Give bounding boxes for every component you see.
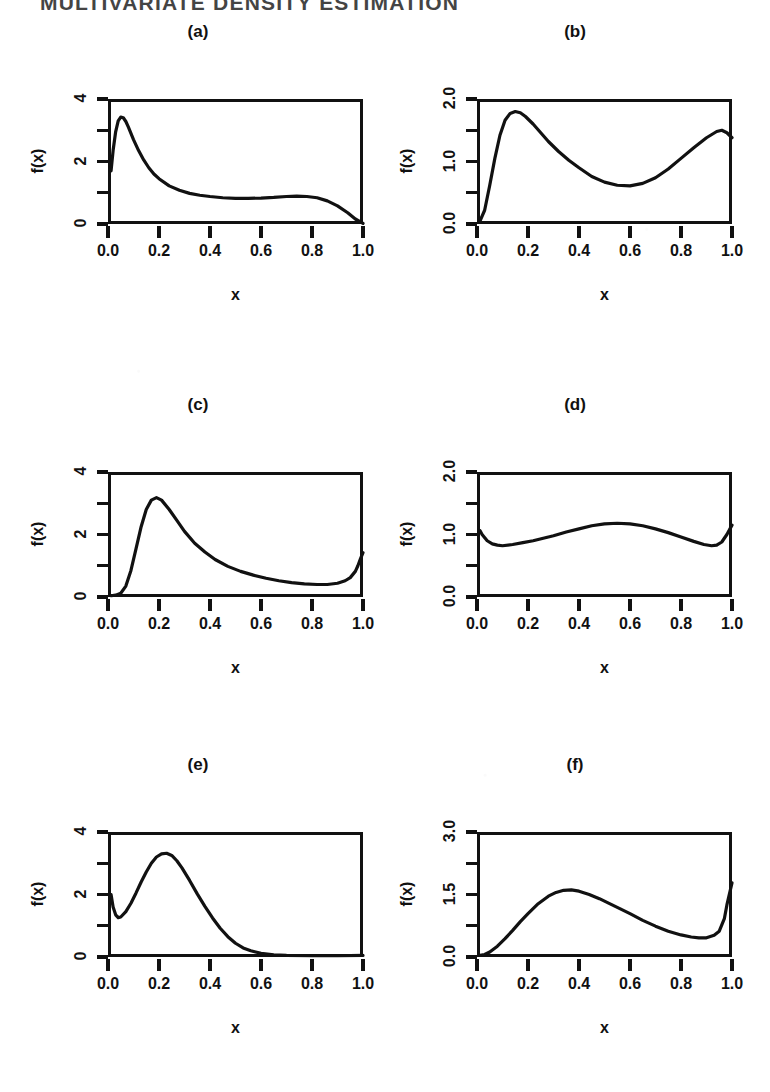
y-axis-tick-minor-b: [466, 129, 477, 132]
x-tick-label-b: 0.6: [607, 242, 653, 260]
plot-panel-a: (a)024f(x)0.00.20.40.60.81.0x: [8, 22, 388, 352]
y-tick-label-e: 2: [72, 871, 90, 917]
x-axis-tick-c: [259, 599, 262, 611]
y-tick-label-b: 2.0: [441, 75, 459, 121]
panel-title-a: (a): [8, 22, 388, 42]
x-tick-label-f: 0.2: [505, 975, 551, 993]
x-axis-tick-d: [577, 599, 580, 611]
x-tick-label-e: 0.4: [187, 975, 233, 993]
y-tick-label-a: 0: [72, 200, 90, 246]
x-tick-label-a: 0.2: [136, 242, 182, 260]
y-axis-tick-major-d: [466, 533, 477, 536]
x-tick-label-f: 0.0: [454, 975, 500, 993]
x-axis-tick-e: [157, 959, 160, 971]
x-axis-tick-f: [679, 959, 682, 971]
x-tick-label-d: 1.0: [709, 615, 755, 633]
y-tick-label-b: 1.0: [441, 138, 459, 184]
x-axis-tick-d: [679, 599, 682, 611]
x-axis-tick-b: [679, 226, 682, 238]
x-tick-label-a: 1.0: [340, 242, 386, 260]
x-tick-label-b: 0.4: [556, 242, 602, 260]
x-tick-label-e: 0.8: [289, 975, 335, 993]
x-axis-tick-a: [106, 226, 109, 238]
x-tick-label-b: 1.0: [709, 242, 755, 260]
x-axis-tick-f: [730, 959, 733, 971]
y-tick-label-c: 4: [72, 448, 90, 494]
running-head: MULTIVARIATE DENSITY ESTIMATION: [40, 0, 459, 15]
y-axis-tick-minor-c: [97, 502, 108, 505]
x-axis-tick-e: [106, 959, 109, 971]
x-axis-tick-c: [310, 599, 313, 611]
plot-panel-e: (e)024f(x)0.00.20.40.60.81.0x: [8, 755, 388, 1085]
x-axis-tick-b: [730, 226, 733, 238]
x-axis-title-f: x: [385, 1019, 770, 1037]
plot-panel-f: (f)0.01.53.0f(x)0.00.20.40.60.81.0x: [385, 755, 765, 1085]
x-tick-label-e: 0.6: [238, 975, 284, 993]
y-axis-tick-minor-c: [97, 564, 108, 567]
y-tick-label-e: 4: [72, 808, 90, 854]
x-tick-label-f: 1.0: [709, 975, 755, 993]
x-axis-tick-c: [106, 599, 109, 611]
density-curve-c: [108, 472, 363, 597]
y-axis-title-a: f(x): [29, 148, 47, 173]
panel-title-d: (d): [385, 395, 765, 415]
x-axis-tick-d: [526, 599, 529, 611]
y-axis-tick-minor-a: [97, 191, 108, 194]
density-curve-b: [477, 99, 732, 224]
x-axis-tick-b: [526, 226, 529, 238]
x-tick-label-a: 0.8: [289, 242, 335, 260]
x-axis-tick-d: [730, 599, 733, 611]
panel-title-e: (e): [8, 755, 388, 775]
x-axis-tick-a: [310, 226, 313, 238]
y-tick-label-e: 0: [72, 933, 90, 979]
density-curve-f: [477, 832, 732, 957]
y-tick-label-a: 2: [72, 138, 90, 184]
x-tick-label-b: 0.8: [658, 242, 704, 260]
y-tick-label-a: 4: [72, 75, 90, 121]
x-axis-tick-c: [157, 599, 160, 611]
x-tick-label-d: 0.4: [556, 615, 602, 633]
x-tick-label-c: 0.6: [238, 615, 284, 633]
x-tick-label-b: 0.0: [454, 242, 500, 260]
y-tick-label-b: 0.0: [441, 200, 459, 246]
x-axis-tick-e: [208, 959, 211, 971]
x-axis-tick-c: [208, 599, 211, 611]
y-tick-label-c: 2: [72, 511, 90, 557]
y-axis-tick-minor-e: [97, 862, 108, 865]
x-axis-title-d: x: [385, 659, 770, 677]
y-tick-label-d: 2.0: [441, 448, 459, 494]
x-tick-label-a: 0.6: [238, 242, 284, 260]
y-axis-tick-major-a: [97, 160, 108, 163]
x-tick-label-c: 0.0: [85, 615, 131, 633]
panel-title-f: (f): [385, 755, 765, 775]
y-tick-label-c: 0: [72, 573, 90, 619]
density-curve-d: [477, 472, 732, 597]
y-axis-tick-major-b: [466, 160, 477, 163]
x-axis-tick-f: [475, 959, 478, 971]
plot-panel-c: (c)024f(x)0.00.20.40.60.81.0x: [8, 395, 388, 725]
y-axis-tick-minor-f: [466, 924, 477, 927]
panel-title-b: (b): [385, 22, 765, 42]
x-axis-tick-f: [628, 959, 631, 971]
x-tick-label-f: 0.6: [607, 975, 653, 993]
x-tick-label-d: 0.8: [658, 615, 704, 633]
x-tick-label-d: 0.6: [607, 615, 653, 633]
x-axis-tick-d: [475, 599, 478, 611]
x-tick-label-c: 0.8: [289, 615, 335, 633]
x-tick-label-d: 0.0: [454, 615, 500, 633]
x-tick-label-f: 0.8: [658, 975, 704, 993]
y-axis-tick-major-f: [466, 830, 477, 833]
x-axis-tick-b: [577, 226, 580, 238]
y-axis-tick-major-e: [97, 830, 108, 833]
x-axis-tick-f: [526, 959, 529, 971]
x-axis-tick-c: [361, 599, 364, 611]
y-axis-tick-minor-f: [466, 862, 477, 865]
y-tick-label-f: 0.0: [441, 933, 459, 979]
density-curve-e: [108, 832, 363, 957]
y-axis-tick-major-a: [97, 97, 108, 100]
x-tick-label-f: 0.4: [556, 975, 602, 993]
x-tick-label-a: 0.4: [187, 242, 233, 260]
x-tick-label-d: 0.2: [505, 615, 551, 633]
y-axis-tick-major-d: [466, 470, 477, 473]
y-axis-tick-minor-b: [466, 191, 477, 194]
